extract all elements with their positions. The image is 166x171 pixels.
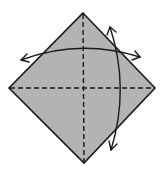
origami-fold-diagram — [0, 0, 166, 171]
